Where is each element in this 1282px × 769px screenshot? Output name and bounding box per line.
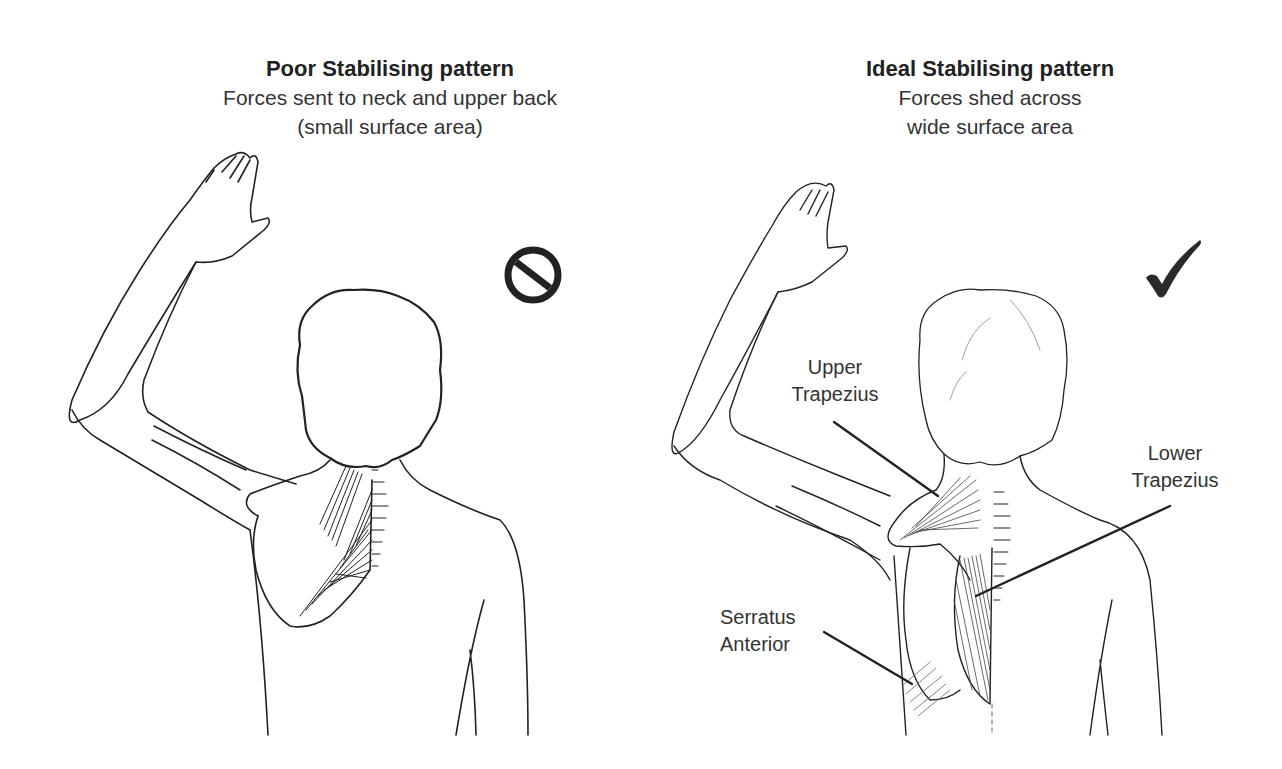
right-arm-outline [672,183,847,454]
upper-trapezius-pointer [834,422,938,496]
right-head [919,289,1067,465]
upper-trapezius-hatching [900,476,980,540]
right-figure-illustration [0,0,1282,769]
serratus-anterior-label: Serratus Anterior [720,604,820,658]
lower-trapezius-label-line1: Lower [1120,440,1230,467]
serratus-anterior-pointer [824,632,912,684]
serratus-anterior-hatching [902,662,950,716]
serratus-anterior-label-line1: Serratus [720,604,820,631]
lower-trapezius-label: Lower Trapezius [1120,440,1230,494]
lower-trapezius-hatching [954,554,990,700]
upper-trapezius-label-line1: Upper [780,354,890,381]
lower-trapezius-label-line2: Trapezius [1120,467,1230,494]
serratus-anterior-label-line2: Anterior [720,631,820,658]
upper-trapezius-label: Upper Trapezius [780,354,890,408]
lower-trapezius-pointer [976,506,1170,596]
upper-trapezius-label-line2: Trapezius [780,381,890,408]
